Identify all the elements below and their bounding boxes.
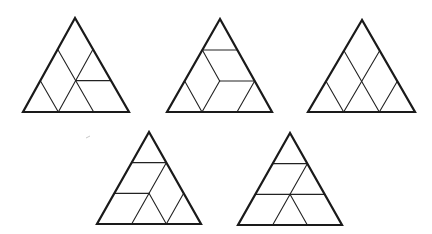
subdivision-line	[185, 81, 202, 112]
subdivision-line	[290, 194, 307, 225]
triangle-outline	[167, 19, 272, 112]
triangle-outline	[308, 20, 415, 112]
triangle-2	[167, 19, 272, 112]
subdivision-line	[202, 50, 219, 81]
triangle-outline	[238, 133, 342, 225]
subdivision-line	[237, 81, 255, 112]
subdivision-line	[379, 81, 397, 112]
subdivision-line	[166, 193, 183, 224]
triangle-4	[97, 132, 201, 224]
subdivision-line	[40, 81, 58, 112]
triangle-puzzle-figure	[0, 0, 432, 234]
triangle-outline	[23, 18, 129, 112]
subdivision-line	[326, 81, 344, 112]
triangle-1	[23, 18, 129, 112]
subdivision-line	[202, 81, 220, 112]
stray-mark	[86, 136, 90, 138]
triangle-5	[238, 133, 342, 225]
triangle-outline	[97, 132, 201, 224]
subdivision-line	[149, 193, 166, 224]
triangle-3	[308, 20, 415, 112]
